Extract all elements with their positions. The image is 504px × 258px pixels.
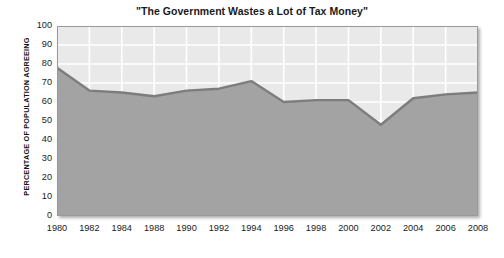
y-tick-label: 70 <box>28 78 52 87</box>
y-tick-label: 50 <box>28 116 52 125</box>
y-tick-label: 20 <box>28 173 52 182</box>
plot-area <box>57 26 478 216</box>
y-tick-label: 80 <box>28 59 52 68</box>
area-chart-svg <box>57 26 478 216</box>
y-tick-label: 10 <box>28 192 52 201</box>
area-series-fill <box>57 68 478 216</box>
x-axis-tick-labels: 1980198219841988199019921994199619982000… <box>0 224 504 240</box>
y-tick-label: 60 <box>28 97 52 106</box>
x-tick-label: 2008 <box>458 224 498 233</box>
chart-title: "The Government Wastes a Lot of Tax Mone… <box>0 5 504 17</box>
chart-figure: "The Government Wastes a Lot of Tax Mone… <box>0 0 504 258</box>
y-axis-tick-labels: 1009080706050403020100 <box>26 0 52 258</box>
y-tick-label: 0 <box>28 211 52 220</box>
y-tick-label: 40 <box>28 135 52 144</box>
y-tick-label: 90 <box>28 40 52 49</box>
y-tick-label: 30 <box>28 154 52 163</box>
y-tick-label: 100 <box>28 21 52 30</box>
